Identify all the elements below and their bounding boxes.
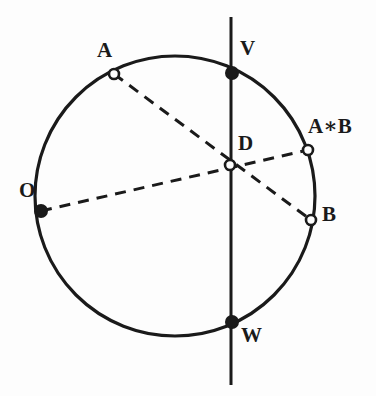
point-label-w: W	[241, 325, 263, 346]
point-label-astarb: A∗B	[308, 116, 352, 137]
point-label-b: B	[322, 204, 337, 225]
point-label-v: V	[240, 38, 256, 59]
chord-a-b	[114, 74, 311, 220]
point-marker-o	[35, 205, 47, 217]
geometry-canvas	[0, 0, 376, 396]
point-label-a: A	[97, 40, 113, 61]
point-marker-astarb	[303, 145, 313, 155]
point-label-d: D	[238, 133, 254, 154]
point-marker-b	[306, 215, 316, 225]
point-marker-w	[226, 316, 238, 328]
point-label-o: O	[19, 180, 36, 201]
geometry-figure: A V A∗B D O B W	[0, 0, 376, 396]
point-marker-a	[109, 69, 119, 79]
point-marker-d	[225, 160, 235, 170]
point-marker-v	[226, 67, 238, 79]
chord-o-astarb	[41, 150, 308, 211]
main-circle	[35, 56, 315, 336]
